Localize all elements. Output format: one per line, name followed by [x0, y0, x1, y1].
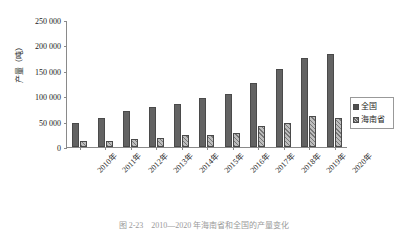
x-axis-tick-label: 2013年 — [170, 150, 195, 175]
x-axis-labels: 2010年2011年2012年2013年2014年2015年2016年2017年… — [66, 150, 347, 190]
chart-legend: 全国 海南省 — [350, 97, 394, 129]
bar-national[interactable] — [225, 94, 232, 147]
bar-hainan[interactable] — [309, 116, 316, 147]
bar-national[interactable] — [98, 118, 105, 147]
legend-label-national: 全国 — [361, 100, 377, 113]
bar-hainan[interactable] — [207, 135, 214, 147]
y-axis-tick-label: 100 000 — [35, 93, 67, 102]
bar-group — [220, 21, 245, 147]
y-axis-tick-label: 250 000 — [35, 17, 67, 26]
bar-national[interactable] — [199, 98, 206, 147]
bar-groups — [67, 21, 347, 147]
y-axis-tick-label: 50 000 — [39, 118, 67, 127]
bar-group — [92, 21, 117, 147]
chart-figure: 产量（吨） 250 000200 000150 000100 00050 000… — [0, 0, 408, 230]
x-axis-tick-label: 2017年 — [272, 150, 297, 175]
bar-hainan[interactable] — [157, 138, 164, 147]
bar-hainan[interactable] — [335, 118, 342, 147]
bar-group — [118, 21, 143, 147]
bar-group — [245, 21, 270, 147]
x-axis-tick-label: 2016年 — [247, 150, 272, 175]
x-axis-tick-label: 2018年 — [298, 150, 323, 175]
x-axis-tick-label: 2011年 — [118, 150, 143, 175]
bar-national[interactable] — [250, 83, 257, 147]
bar-national[interactable] — [276, 69, 283, 147]
bar-hainan[interactable] — [131, 139, 138, 147]
figure-caption: 图 2-23 2010—2020 年海南省和全国的产量变化 — [0, 219, 408, 230]
bar-hainan[interactable] — [106, 141, 113, 147]
bar-group — [67, 21, 92, 147]
legend-item-hainan: 海南省 — [353, 113, 390, 126]
plot-area: 250 000200 000150 000100 00050 0000 — [66, 21, 347, 148]
bar-group — [169, 21, 194, 147]
x-axis-tick-label: 2019年 — [323, 150, 348, 175]
bar-national[interactable] — [327, 54, 334, 147]
bar-group — [296, 21, 321, 147]
y-axis-tick-label: 200 000 — [35, 42, 67, 51]
legend-label-hainan: 海南省 — [361, 113, 385, 126]
bar-national[interactable] — [72, 123, 79, 147]
x-axis-tick-label: 2012年 — [145, 150, 170, 175]
x-axis-tick-label: 2010年 — [94, 150, 119, 175]
bar-hainan[interactable] — [258, 126, 265, 147]
legend-swatch-hainan-icon — [353, 117, 359, 123]
bar-group — [322, 21, 347, 147]
bar-national[interactable] — [123, 111, 130, 147]
bar-hainan[interactable] — [233, 133, 240, 147]
bar-national[interactable] — [174, 104, 181, 147]
legend-swatch-national-icon — [353, 104, 359, 110]
y-axis-title: 产量（吨） — [13, 23, 24, 103]
x-axis-tick-label: 2014年 — [196, 150, 221, 175]
y-axis-tick-label: 150 000 — [35, 67, 67, 76]
bar-group — [143, 21, 168, 147]
bar-group — [271, 21, 296, 147]
bar-national[interactable] — [149, 107, 156, 147]
bar-group — [194, 21, 219, 147]
bar-national[interactable] — [301, 58, 308, 147]
x-axis-tick-label: 2020年 — [349, 150, 374, 175]
y-axis-tick-mark — [64, 148, 67, 149]
x-axis-tick-label: 2015年 — [221, 150, 246, 175]
bar-hainan[interactable] — [182, 135, 189, 147]
bar-hainan[interactable] — [284, 123, 291, 147]
bar-hainan[interactable] — [80, 141, 87, 147]
legend-item-national: 全国 — [353, 100, 390, 113]
